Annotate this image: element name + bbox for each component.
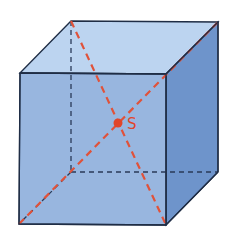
cube-diagram: S [0,0,236,239]
center-label: S [127,115,137,133]
front-face [19,73,166,225]
center-point [114,119,123,128]
